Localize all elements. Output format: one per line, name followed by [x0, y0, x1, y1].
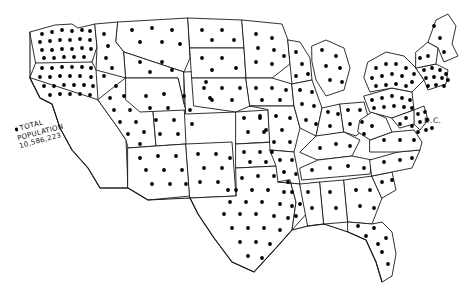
state-outlines	[30, 14, 458, 282]
population-map-figure: TOTAL POPULATION 10,586,223 D.C.	[0, 0, 471, 294]
dc-label: D.C.	[424, 116, 441, 125]
us-map-svg	[0, 0, 471, 294]
